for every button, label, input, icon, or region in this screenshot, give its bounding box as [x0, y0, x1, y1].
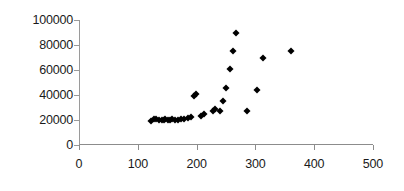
x-axis-tick — [314, 145, 315, 150]
x-axis-tick — [255, 145, 256, 150]
x-axis-tick-label: 200 — [167, 158, 227, 171]
y-axis-tick — [74, 70, 79, 71]
y-axis-tick-label: 40000 — [39, 89, 73, 102]
x-axis-tick-label: 500 — [343, 158, 403, 171]
x-axis-tick — [79, 145, 80, 150]
y-axis-tick-label: 100000 — [32, 14, 73, 27]
x-axis-tick — [138, 145, 139, 150]
y-axis-tick-label: 0 — [66, 139, 73, 152]
scatter-chart: 020000400006000080000100000 010020030040… — [0, 0, 404, 191]
y-axis-tick — [74, 120, 79, 121]
plot-area — [79, 20, 373, 145]
y-axis-tick — [74, 45, 79, 46]
x-axis-tick-label: 0 — [49, 158, 109, 171]
y-axis-tick-label: 20000 — [39, 114, 73, 127]
x-axis-tick-label: 400 — [284, 158, 344, 171]
x-axis-tick — [197, 145, 198, 150]
y-axis-tick-label: 60000 — [39, 64, 73, 77]
y-axis-tick — [74, 95, 79, 96]
x-axis-tick-label: 100 — [108, 158, 168, 171]
x-axis-tick-label: 300 — [225, 158, 285, 171]
y-axis-tick — [74, 20, 79, 21]
y-axis-tick-label: 80000 — [39, 39, 73, 52]
x-axis-tick — [373, 145, 374, 150]
